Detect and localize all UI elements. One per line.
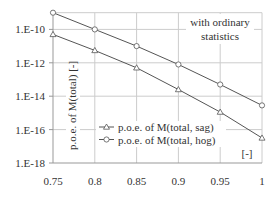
annotation-line-1: with ordinary xyxy=(190,16,250,28)
legend: p.o.e. of M(total, sag)p.o.e. of M(total… xyxy=(96,121,226,147)
x-axis-ticks: 0.750.80.850.90.951 xyxy=(43,175,264,187)
circle-marker xyxy=(92,27,97,32)
x-tick-label: 0.85 xyxy=(127,175,147,187)
chart: 1.E-101.E-121.E-141.E-161.E-18 0.750.80.… xyxy=(0,0,276,198)
triangle-marker xyxy=(175,87,181,92)
circle-marker xyxy=(176,62,181,67)
triangle-marker xyxy=(217,109,223,114)
circle-marker xyxy=(218,82,223,87)
y-tick-label: 1.E-12 xyxy=(15,57,45,69)
y-axis-ticks: 1.E-101.E-121.E-141.E-161.E-18 xyxy=(15,23,53,169)
x-tick-label: 0.75 xyxy=(43,175,63,187)
x-tick-label: 0.8 xyxy=(88,175,102,187)
y-tick-label: 1.E-16 xyxy=(15,124,45,136)
annotation-line-2: statistics xyxy=(201,30,239,42)
y-tick-label: 1.E-18 xyxy=(15,157,45,169)
x-unit-label: [-] xyxy=(242,147,253,159)
x-tick-label: 1 xyxy=(259,175,265,187)
x-tick-label: 0.95 xyxy=(211,175,231,187)
circle-marker xyxy=(134,44,139,49)
x-tick-label: 0.9 xyxy=(172,175,186,187)
circle-marker xyxy=(104,137,109,142)
legend-label: p.o.e. of M(total, sag) xyxy=(118,121,214,134)
circle-marker xyxy=(50,10,55,15)
triangle-marker xyxy=(50,31,56,36)
y-tick-label: 1.E-14 xyxy=(15,90,45,102)
y-tick-label: 1.E-10 xyxy=(15,23,45,35)
legend-label: p.o.e. of M(total, hog) xyxy=(118,134,216,147)
y-axis-label: p.o.e. of M(total) [-] xyxy=(66,61,79,150)
circle-marker xyxy=(259,103,264,108)
triangle-marker xyxy=(259,135,265,140)
